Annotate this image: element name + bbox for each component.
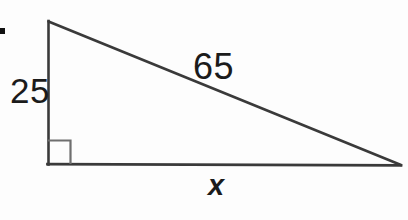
triangle-figure: 25 65 x	[0, 0, 408, 220]
side-label-hypotenuse: 65	[193, 49, 234, 85]
triangle-base-leg	[48, 164, 402, 165]
side-label-base-unknown: x	[208, 171, 224, 200]
side-label-vertical-leg: 25	[10, 73, 50, 108]
list-bullet-icon	[0, 28, 5, 34]
figure-background	[0, 0, 408, 220]
triangle-drawing	[0, 0, 408, 220]
